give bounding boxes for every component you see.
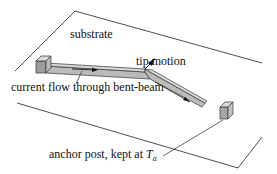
left-anchor-post [36, 56, 51, 73]
anchor-post-text: anchor post, kept at [49, 147, 146, 161]
tip-motion-label: tip motion [136, 55, 186, 67]
current-flow-label: current flow through bent-beam [11, 81, 164, 93]
right-anchor-post [220, 102, 233, 119]
substrate-label: substrate [70, 28, 113, 40]
anchor-post-label: anchor post, kept at Ta [49, 148, 157, 163]
temperature-var: T [146, 147, 153, 161]
temperature-subscript: a [153, 154, 157, 163]
anchor-post-leader [163, 120, 223, 156]
anchor-temperature-symbol: Ta [146, 147, 157, 161]
